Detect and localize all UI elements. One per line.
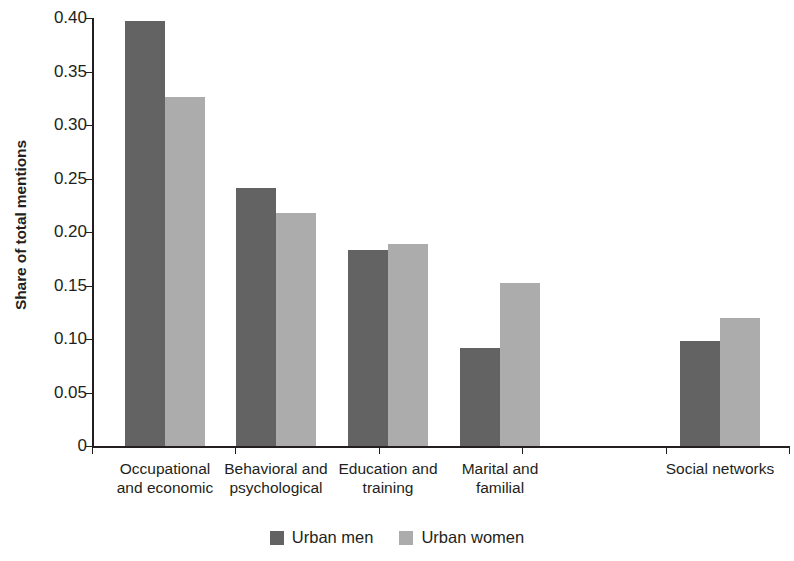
bar-urban-women: [276, 213, 316, 446]
y-axis-tick-label: 0: [78, 436, 87, 456]
legend-swatch-icon: [399, 531, 413, 545]
y-axis-tick-label: 0.25: [54, 169, 87, 189]
plot-area: 0.400.350.300.250.200.150.100.050: [92, 18, 790, 446]
y-axis-tick-label: 0.20: [54, 222, 87, 242]
legend-item-urban-women[interactable]: Urban women: [399, 528, 524, 547]
x-axis-category-label-line1: Marital and: [462, 460, 539, 477]
y-axis-tick-label: 0.30: [54, 115, 87, 135]
bar-urban-men: [680, 341, 720, 446]
x-axis-tick-mark: [235, 446, 236, 454]
x-axis-category-label: Marital andfamilial: [420, 459, 580, 497]
x-axis-category-label: Social networks: [640, 459, 794, 478]
bar-chart-figure: Share of total mentions 0.400.350.300.25…: [0, 0, 794, 561]
bar-urban-women: [500, 283, 540, 446]
x-axis-tick-mark: [666, 446, 667, 454]
y-axis-tick-label: 0.05: [54, 383, 87, 403]
x-axis-tick-mark: [379, 446, 380, 454]
chart-legend: Urban menUrban women: [0, 528, 794, 547]
bar-urban-men: [236, 188, 276, 446]
bar-urban-men: [460, 348, 500, 446]
bar-urban-women: [388, 244, 428, 446]
legend-label: Urban women: [421, 528, 524, 547]
y-axis-title: Share of total mentions: [12, 100, 30, 350]
bar-urban-women: [165, 97, 205, 446]
legend-swatch-icon: [270, 531, 284, 545]
x-axis-line: [92, 446, 790, 448]
x-axis-tick-mark: [522, 446, 523, 454]
x-axis-tick-mark: [92, 446, 93, 454]
x-axis-category-label-line2: familial: [420, 478, 580, 497]
bar-urban-women: [720, 318, 760, 446]
x-axis-tick-mark: [789, 446, 790, 454]
y-axis-tick-label: 0.40: [54, 8, 87, 28]
legend-item-urban-men[interactable]: Urban men: [270, 528, 374, 547]
y-axis-line: [92, 18, 94, 446]
y-axis-tick-label: 0.35: [54, 62, 87, 82]
y-axis-tick-label: 0.10: [54, 329, 87, 349]
bar-urban-men: [348, 250, 388, 446]
x-axis-category-label-line1: Social networks: [666, 460, 775, 477]
bar-urban-men: [125, 21, 165, 446]
legend-label: Urban men: [292, 528, 374, 547]
y-axis-tick-label: 0.15: [54, 276, 87, 296]
